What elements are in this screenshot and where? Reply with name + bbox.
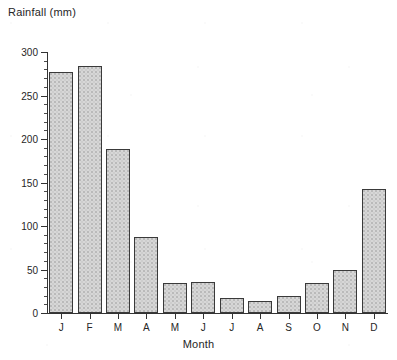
- y-minor-tick-mark: [44, 261, 47, 262]
- x-tick-label: F: [87, 322, 93, 333]
- y-minor-tick-mark: [44, 148, 47, 149]
- y-axis-title: Rainfall (mm): [8, 6, 76, 18]
- y-tick-label: 0: [32, 308, 38, 319]
- rainfall-bar-chart: Rainfall (mm) 050100150200250300 JFMAMJJ…: [0, 0, 397, 360]
- x-tick-mark: [289, 313, 290, 319]
- y-minor-tick-mark: [44, 243, 47, 244]
- y-tick-mark: [41, 313, 47, 314]
- x-tick-label: J: [201, 322, 206, 333]
- x-tick-label: M: [171, 322, 179, 333]
- x-tick-mark: [260, 313, 261, 319]
- x-tick-mark: [317, 313, 318, 319]
- y-minor-tick-mark: [44, 156, 47, 157]
- y-minor-tick-mark: [44, 217, 47, 218]
- x-axis-line: [47, 313, 388, 314]
- x-tick-label: S: [285, 322, 292, 333]
- x-tick-label: N: [342, 322, 349, 333]
- x-tick-mark: [374, 313, 375, 319]
- y-tick-mark: [41, 226, 47, 227]
- y-tick-label: 250: [21, 90, 38, 101]
- x-tick-label: A: [143, 322, 150, 333]
- y-tick-mark: [41, 270, 47, 271]
- bar: [78, 66, 102, 313]
- y-minor-tick-mark: [44, 113, 47, 114]
- y-tick-label: 50: [27, 264, 38, 275]
- x-tick-label: O: [313, 322, 321, 333]
- x-tick-mark: [232, 313, 233, 319]
- x-tick-label: D: [370, 322, 377, 333]
- plot-area: 050100150200250300 JFMAMJJASOND: [47, 52, 388, 313]
- bar: [106, 149, 130, 313]
- y-minor-tick-mark: [44, 209, 47, 210]
- x-tick-label: A: [257, 322, 264, 333]
- x-tick-mark: [118, 313, 119, 319]
- bar: [305, 283, 329, 313]
- y-minor-tick-mark: [44, 122, 47, 123]
- y-minor-tick-mark: [44, 87, 47, 88]
- y-minor-tick-mark: [44, 130, 47, 131]
- y-minor-tick-mark: [44, 165, 47, 166]
- y-minor-tick-mark: [44, 69, 47, 70]
- x-tick-mark: [146, 313, 147, 319]
- y-tick-mark: [41, 52, 47, 53]
- y-tick-mark: [41, 139, 47, 140]
- bar: [191, 282, 215, 313]
- y-tick-label: 150: [21, 177, 38, 188]
- bar: [163, 283, 187, 313]
- x-tick-mark: [175, 313, 176, 319]
- x-tick-mark: [61, 313, 62, 319]
- y-minor-tick-mark: [44, 104, 47, 105]
- y-tick-label: 100: [21, 221, 38, 232]
- x-tick-mark: [203, 313, 204, 319]
- y-tick-label: 200: [21, 134, 38, 145]
- x-axis-title: Month: [0, 338, 397, 350]
- bar: [277, 296, 301, 313]
- bar: [49, 72, 73, 313]
- y-minor-tick-mark: [44, 296, 47, 297]
- x-tick-label: J: [229, 322, 234, 333]
- x-tick-label: M: [114, 322, 122, 333]
- y-minor-tick-mark: [44, 235, 47, 236]
- y-tick-mark: [41, 96, 47, 97]
- y-minor-tick-mark: [44, 78, 47, 79]
- y-tick-label: 300: [21, 47, 38, 58]
- y-minor-tick-mark: [44, 174, 47, 175]
- x-tick-mark: [345, 313, 346, 319]
- y-minor-tick-mark: [44, 287, 47, 288]
- y-minor-tick-mark: [44, 200, 47, 201]
- y-minor-tick-mark: [44, 278, 47, 279]
- y-minor-tick-mark: [44, 191, 47, 192]
- y-axis-line: [47, 52, 48, 314]
- y-minor-tick-mark: [44, 61, 47, 62]
- x-tick-mark: [90, 313, 91, 319]
- bar: [134, 237, 158, 313]
- y-tick-mark: [41, 183, 47, 184]
- bar: [333, 270, 357, 314]
- bar: [220, 298, 244, 313]
- y-minor-tick-mark: [44, 252, 47, 253]
- bar: [248, 301, 272, 313]
- y-minor-tick-mark: [44, 304, 47, 305]
- bar: [362, 189, 386, 313]
- x-tick-label: J: [59, 322, 64, 333]
